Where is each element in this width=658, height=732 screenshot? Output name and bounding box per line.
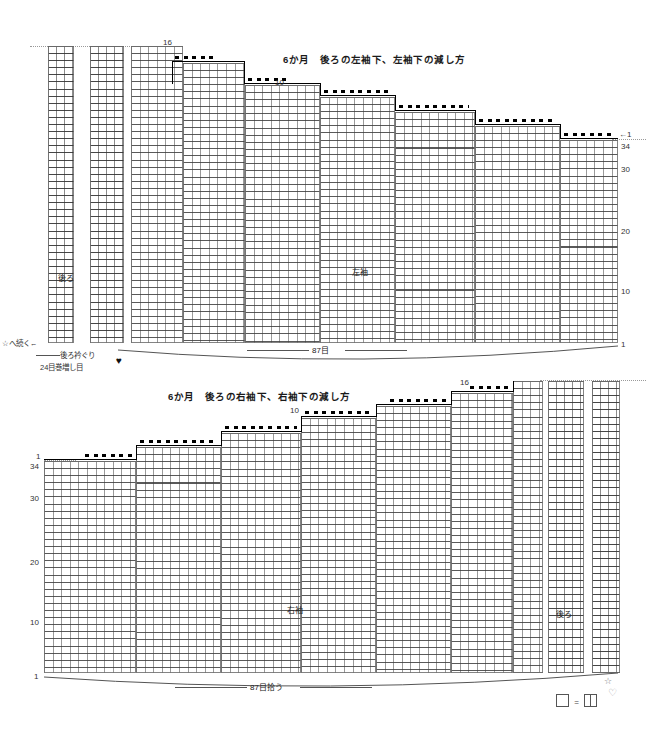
stair-riser-b6 <box>513 381 514 392</box>
continue-label: ☆へ続く← <box>2 337 37 348</box>
neckline-leader <box>36 355 60 356</box>
stair-tread-5 <box>475 124 560 125</box>
stair-riser-4 <box>395 95 396 111</box>
bindoff-marks-1 <box>175 56 215 59</box>
stair-riser-3 <box>320 83 321 96</box>
back-panel-bottom-far-right <box>592 381 620 673</box>
back-label-bottom: 後ろ <box>556 608 572 619</box>
stair-tread-b6 <box>451 391 513 392</box>
stair-block-b2 <box>136 447 221 673</box>
stair-block-b7 <box>513 381 543 673</box>
top-chart-title: 6か月 後ろの左袖下、左袖下の減し方 <box>283 52 465 66</box>
width-measure-left-bottom <box>175 687 247 688</box>
hem-curve-top <box>0 336 658 366</box>
stair-block-6 <box>475 126 560 343</box>
bindoff-marks-b4 <box>305 411 371 414</box>
stair-riser-b3 <box>301 416 302 432</box>
stair-block-2 <box>183 63 245 343</box>
step-number-10-top: 10 <box>275 78 284 87</box>
row-number-10-bottom: 10 <box>30 618 39 627</box>
bottom-chart-title: 6か月 後ろの右袖下、右袖下の減し方 <box>168 389 350 403</box>
stair-tread-4 <box>395 110 475 111</box>
bindoff-marks-3 <box>324 90 392 93</box>
row-number-30-bottom: 30 <box>30 494 39 503</box>
stair-riser-b2 <box>221 431 222 446</box>
row-number-10-top: 10 <box>621 287 630 296</box>
bindoff-marks-5 <box>479 119 553 122</box>
stair-block-b5 <box>376 406 451 673</box>
bindoff-marks-4 <box>399 105 469 108</box>
stair-block-1 <box>131 46 183 343</box>
top-chart: 6か月 後ろの左袖下、左袖下の減し方 後ろ 16 10 左袖 ←1 34 30 … <box>0 0 658 372</box>
back-label-top: 後ろ <box>58 272 74 283</box>
stair-block-3 <box>245 85 320 343</box>
stair-riser-b5 <box>451 391 452 405</box>
bottom-width-label-bottom: 87目拾う <box>250 681 283 692</box>
row-number-20-bottom: 20 <box>30 558 39 567</box>
row-number-20-top: 20 <box>621 227 630 236</box>
step-number-16-top: 16 <box>163 38 172 47</box>
width-measure-right-bottom <box>300 687 372 688</box>
heart-marker-bottom: ♡ <box>608 688 617 698</box>
stair-riser-1 <box>172 61 173 84</box>
bindoff-marks-6 <box>564 133 614 136</box>
stair-block-b1 <box>44 461 136 673</box>
back-panel-left <box>48 46 74 343</box>
stair-block-4 <box>320 97 395 343</box>
width-measure-left-top <box>247 350 309 351</box>
stair-riser-5 <box>475 110 476 125</box>
row-number-34-bottom: 34 <box>30 462 39 471</box>
stair-tread-b1 <box>44 459 136 460</box>
sleeve-label-bottom: 右袖 <box>287 604 303 615</box>
stair-block-b3 <box>221 433 301 673</box>
stair-riser-b4 <box>376 404 377 417</box>
step-number-10-bottom: 10 <box>290 406 299 415</box>
bindoff-marks-b5 <box>390 399 448 402</box>
bindoff-marks-b3 <box>225 426 297 429</box>
neckline-label: 後ろ衿ぐり <box>60 349 95 360</box>
cast-on-label: 24目巻増し目 <box>40 361 83 372</box>
stair-tread-1 <box>172 61 244 62</box>
stair-tread-b2 <box>136 445 221 446</box>
stair-riser-6 <box>560 124 561 139</box>
step-number-16-bottom: 16 <box>460 378 469 387</box>
hem-curve-bottom <box>0 667 658 697</box>
bindoff-marks-b2 <box>140 440 216 443</box>
star-marker-bottom: ☆ <box>604 677 612 686</box>
stair-block-5 <box>395 112 475 343</box>
stair-tread-3 <box>320 95 395 96</box>
stair-tread-b3 <box>221 431 301 432</box>
width-measure-right-top <box>345 350 407 351</box>
stair-riser-2 <box>244 61 245 84</box>
bottom-width-label-top: 87目 <box>312 344 329 355</box>
stair-riser-b1 <box>136 445 137 460</box>
stair-tread-6 <box>560 138 618 139</box>
bindoff-marks-b1 <box>85 454 133 457</box>
stair-block-b4 <box>301 418 376 673</box>
sleeve-label-top: 左袖 <box>352 266 368 277</box>
plain-knit-square-icon <box>556 694 569 707</box>
bottom-chart: 6か月 後ろの右袖下、右袖下の減し方 16 10 右袖 後ろ 1 34 30 2… <box>0 372 658 732</box>
row-arrow-top: ←1 <box>619 130 631 139</box>
back-panel-right <box>90 46 124 343</box>
bindoff-marks-b6 <box>470 386 510 389</box>
back-panel-bottom-right <box>548 381 584 673</box>
stair-tread-b4 <box>301 416 376 417</box>
heart-marker-top: ♥ <box>116 356 122 366</box>
legend: = <box>556 694 597 707</box>
legend-equals: = <box>574 698 579 707</box>
row-number-30-top: 30 <box>621 165 630 174</box>
stair-block-b6 <box>451 393 513 673</box>
stair-tread-b5 <box>376 404 451 405</box>
row-arrow-bottom: 1 <box>36 452 40 461</box>
row-number-34-top: 34 <box>621 142 630 151</box>
split-knit-square-icon <box>584 694 597 707</box>
stair-block-7 <box>560 140 618 343</box>
